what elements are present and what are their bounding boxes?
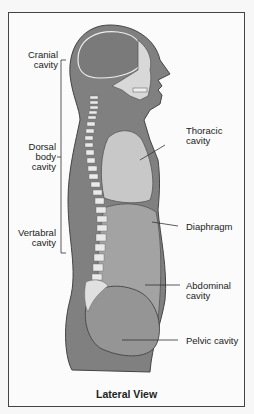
label-line: Diaphragm — [186, 222, 232, 232]
label-line: cavity — [10, 238, 56, 248]
label-diaphragm: Diaphragm — [186, 222, 232, 232]
dorsal-bracket — [57, 60, 66, 253]
label-thoracic-cavity: Thoracic cavity — [186, 126, 222, 146]
label-line: cavity — [14, 60, 58, 70]
label-line: cavity — [186, 136, 222, 146]
label-line: cavity — [186, 291, 231, 301]
label-cranial-cavity: Cranial cavity — [14, 50, 58, 70]
label-dorsal-body-cavity: Dorsal body cavity — [12, 142, 56, 172]
label-vertebral-cavity: Vertabral cavity — [10, 228, 56, 248]
label-abdominal-cavity: Abdominal cavity — [186, 281, 231, 301]
label-line: Pelvic cavity — [186, 336, 238, 346]
label-line: cavity — [12, 162, 56, 172]
diagram-title: Lateral View — [96, 388, 157, 400]
label-pelvic-cavity: Pelvic cavity — [186, 336, 238, 346]
teeth — [133, 88, 147, 92]
cranial-cavity — [78, 32, 143, 78]
